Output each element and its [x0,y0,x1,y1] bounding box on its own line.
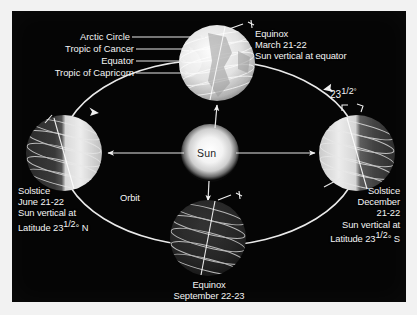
axis-tilt-fraction: 1/2 [341,86,354,96]
sun-label: Sun [197,147,216,159]
december-latitude-fraction: 1/2 [375,230,387,240]
tilt-angle-arrows [342,104,363,112]
tilt-marker-september [218,191,242,200]
june-solstice-caption: Solstice June 21-22 Sun vertical at Lati… [18,185,88,233]
tilt-marker-march [229,20,254,29]
axis-tilt-value: 23 [330,89,341,100]
september-note: Sun vertical at equator [109,301,309,302]
label-equator: Equator [12,55,134,66]
march-date: March 21-22 [255,39,347,50]
june-latitude-fraction: 1/2 [63,219,75,229]
seasons-diagram-figure: Arctic Circle Tropic of Cancer Equator T… [0,0,417,315]
june-date: June 21-22 [18,196,88,207]
sun-ray-to-march [215,105,217,128]
december-date-line1: December [330,196,400,207]
sun-ray-to-september [208,181,209,201]
december-event: Solstice [330,185,400,196]
globe-september-equinox [169,191,246,280]
june-note-line2: Latitude 231/2° N [18,219,88,233]
june-event: Solstice [18,185,88,196]
globe-december-solstice [318,104,395,195]
march-equinox-caption: Equinox March 21-22 Sun vertical at equa… [255,28,347,62]
orbit-label: Orbit [120,192,140,203]
december-solstice-caption: Solstice December 21-22 Sun vertical at … [330,185,400,244]
december-note-line2: Latitude 231/2° S [330,230,400,244]
globe-march-equinox [178,20,255,101]
december-note-line1: Sun vertical at [330,219,400,230]
september-equinox-caption: Equinox September 22-23 Sun vertical at … [109,279,309,302]
label-tropic-of-capricorn: Tropic of Capricorn [12,67,134,78]
label-arctic-circle: Arctic Circle [12,31,130,42]
december-latitude-suffix: ° S [388,233,400,244]
june-note-line1: Sun vertical at [18,207,88,218]
march-note: Sun vertical at equator [255,50,347,61]
september-event: Equinox [109,279,309,290]
june-latitude-suffix: ° N [76,222,89,233]
june-latitude-prefix: Latitude 23 [18,222,63,233]
september-date: September 22-23 [109,290,309,301]
december-latitude-prefix: Latitude 23 [330,233,375,244]
diagram-panel: Arctic Circle Tropic of Cancer Equator T… [12,11,406,302]
label-tropic-of-cancer: Tropic of Cancer [12,43,134,54]
axis-tilt-annotation: 231/2° [330,86,356,100]
march-event: Equinox [255,28,347,39]
axis-tilt-degree: ° [354,88,357,95]
december-date-line2: 21-22 [330,207,400,218]
globe-june-solstice [25,114,102,195]
